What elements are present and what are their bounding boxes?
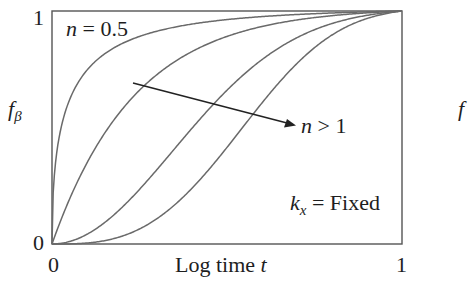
- annotation-n-gt-1: n > 1: [301, 113, 346, 138]
- annotation-k-fixed: kx = Fixed: [290, 190, 380, 218]
- chart: 1 0 0 1 Log time t fβ n = 0.5 n > 1 kx =…: [0, 0, 471, 285]
- n-increase-arrow: [133, 83, 296, 128]
- x-axis-label-main: Log time: [175, 252, 261, 277]
- x-axis-label-var: t: [261, 252, 268, 277]
- x-tick-0: 0: [48, 252, 59, 277]
- y-axis-label-sub: β: [13, 108, 22, 124]
- partial-right-axis-label: f: [458, 96, 467, 121]
- x-axis-label: Log time t: [175, 252, 268, 277]
- x-tick-1: 1: [396, 252, 407, 277]
- y-tick-1: 1: [33, 5, 44, 30]
- y-axis-label: fβ: [8, 96, 22, 124]
- annotation-n-0-5: n = 0.5: [66, 16, 128, 41]
- y-tick-0: 0: [33, 230, 44, 255]
